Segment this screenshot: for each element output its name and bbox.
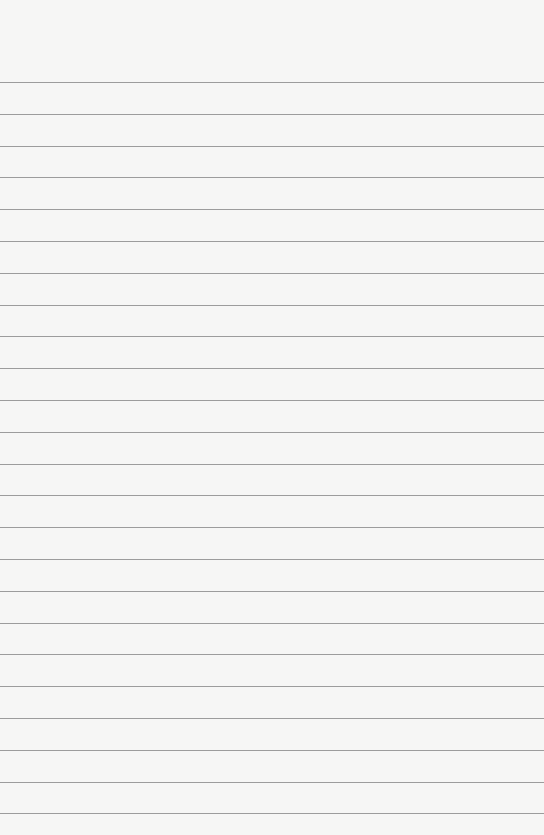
ruled-line — [0, 114, 544, 115]
ruled-line — [0, 368, 544, 369]
lined-paper-sheet — [0, 0, 544, 835]
ruled-line — [0, 527, 544, 528]
ruled-line — [0, 400, 544, 401]
ruled-line — [0, 273, 544, 274]
ruled-line — [0, 146, 544, 147]
ruled-line — [0, 336, 544, 337]
ruled-line — [0, 559, 544, 560]
ruled-line — [0, 718, 544, 719]
ruled-line — [0, 623, 544, 624]
ruled-line — [0, 82, 544, 83]
ruled-line — [0, 464, 544, 465]
ruled-line — [0, 654, 544, 655]
ruled-line — [0, 782, 544, 783]
ruled-line — [0, 750, 544, 751]
ruled-line — [0, 686, 544, 687]
ruled-line — [0, 591, 544, 592]
ruled-line — [0, 813, 544, 814]
ruled-line — [0, 209, 544, 210]
ruled-line — [0, 177, 544, 178]
ruled-line — [0, 432, 544, 433]
ruled-line — [0, 241, 544, 242]
ruled-line — [0, 495, 544, 496]
ruled-line — [0, 305, 544, 306]
